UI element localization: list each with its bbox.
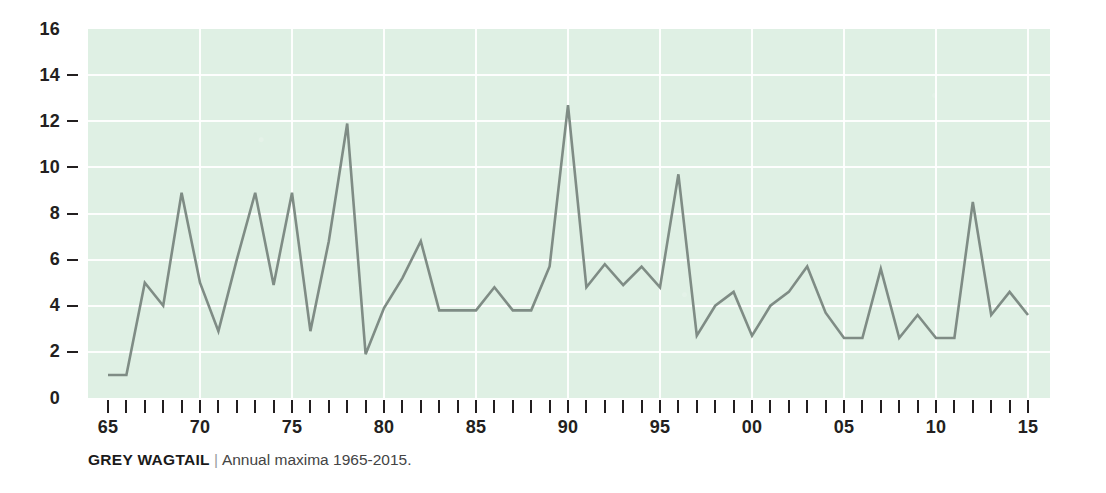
x-axis-tick-1997 (696, 400, 698, 413)
y-axis-tick-mark (67, 397, 78, 399)
x-axis-tick-2007 (880, 400, 882, 413)
x-axis-tick-2001 (769, 400, 771, 413)
y-axis-tick-mark (67, 74, 78, 76)
x-axis-tick-2010 (935, 400, 937, 413)
y-axis: 0246810121416 (0, 0, 88, 420)
x-axis-tick-2002 (788, 400, 790, 413)
x-axis-tick-label-80: 80 (374, 417, 394, 438)
y-axis-tick-12: 12 (0, 112, 82, 130)
series-svg (88, 29, 1050, 398)
y-axis-tick-label: 0 (50, 388, 60, 409)
x-axis-tick-1967 (144, 400, 146, 413)
series-line-grey-wagtail (108, 105, 1028, 375)
chart-figure: 0246810121416 6570758085909500051015 GRE… (0, 0, 1106, 493)
x-axis-tick-2013 (990, 400, 992, 413)
y-axis-tick-mark (67, 213, 78, 215)
x-axis-tick-1975 (291, 400, 293, 413)
x-axis-tick-1982 (420, 400, 422, 413)
y-axis-tick-8: 8 (0, 205, 82, 223)
x-axis-tick-2004 (825, 400, 827, 413)
caption-subtitle: Annual maxima 1965-2015. (222, 451, 412, 468)
y-axis-tick-label: 2 (50, 341, 60, 362)
x-axis-tick-1996 (677, 400, 679, 413)
x-axis-tick-1985 (475, 400, 477, 413)
x-axis-tick-label-95: 95 (650, 417, 670, 438)
x-axis-tick-1986 (493, 400, 495, 413)
x-axis-tick-label-75: 75 (282, 417, 302, 438)
x-axis-tick-label-70: 70 (190, 417, 210, 438)
y-axis-tick-mark (67, 166, 78, 168)
x-axis-tick-1995 (659, 400, 661, 413)
y-axis-tick-16: 16 (0, 20, 82, 38)
x-axis-tick-2015 (1027, 400, 1029, 413)
y-axis-tick-mark (67, 305, 78, 307)
x-axis-tick-label-15: 15 (1018, 417, 1038, 438)
y-axis-tick-mark (67, 351, 78, 353)
x-axis-tick-1998 (714, 400, 716, 413)
x-axis-tick-2011 (953, 400, 955, 413)
x-axis-tick-1966 (125, 400, 127, 413)
x-axis-tick-1987 (512, 400, 514, 413)
x-axis-tick-1983 (438, 400, 440, 413)
x-axis-tick-label-90: 90 (558, 417, 578, 438)
x-axis-tick-1974 (273, 400, 275, 413)
x-axis-tick-1981 (401, 400, 403, 413)
y-axis-tick-mark (67, 259, 78, 261)
x-axis-tick-label-65: 65 (98, 417, 118, 438)
x-axis-tick-1979 (365, 400, 367, 413)
x-axis-tick-1980 (383, 400, 385, 413)
y-axis-tick-mark (67, 28, 78, 30)
y-axis-tick-6: 6 (0, 251, 82, 269)
x-axis-tick-label-10: 10 (926, 417, 946, 438)
x-axis-tick-label-00: 00 (742, 417, 762, 438)
x-axis-tick-1989 (549, 400, 551, 413)
x-axis-tick-label-85: 85 (466, 417, 486, 438)
x-axis-tick-1968 (162, 400, 164, 413)
x-axis-tick-1994 (641, 400, 643, 413)
x-axis-tick-label-05: 05 (834, 417, 854, 438)
y-axis-tick-label: 4 (50, 295, 60, 316)
x-axis-tick-1965 (107, 400, 109, 413)
x-axis-tick-1970 (199, 400, 201, 413)
y-axis-tick-mark (67, 120, 78, 122)
x-axis-tick-2000 (751, 400, 753, 413)
x-axis-tick-1993 (622, 400, 624, 413)
y-axis-tick-4: 4 (0, 297, 82, 315)
x-axis: 6570758085909500051015 (88, 398, 1050, 454)
x-axis-tick-1976 (309, 400, 311, 413)
x-axis-tick-1977 (328, 400, 330, 413)
x-axis-tick-1999 (733, 400, 735, 413)
caption-separator: | (210, 451, 222, 468)
y-axis-tick-label: 12 (40, 111, 60, 132)
y-axis-tick-0: 0 (0, 389, 82, 407)
y-axis-tick-label: 8 (50, 203, 60, 224)
x-axis-tick-1978 (346, 400, 348, 413)
x-axis-tick-1991 (585, 400, 587, 413)
x-axis-tick-2008 (898, 400, 900, 413)
y-axis-tick-2: 2 (0, 343, 82, 361)
y-axis-tick-label: 10 (40, 157, 60, 178)
x-axis-tick-2006 (861, 400, 863, 413)
x-axis-tick-1984 (457, 400, 459, 413)
x-axis-tick-2014 (1009, 400, 1011, 413)
y-axis-tick-label: 14 (40, 65, 60, 86)
x-axis-tick-2012 (972, 400, 974, 413)
y-axis-tick-label: 6 (50, 249, 60, 270)
caption: GREY WAGTAIL|Annual maxima 1965-2015. (88, 451, 411, 469)
plot-area (88, 29, 1050, 398)
x-axis-tick-2003 (806, 400, 808, 413)
y-axis-tick-10: 10 (0, 158, 82, 176)
x-axis-tick-1990 (567, 400, 569, 413)
y-axis-tick-label: 16 (40, 19, 60, 40)
x-axis-tick-2009 (917, 400, 919, 413)
x-axis-tick-1992 (604, 400, 606, 413)
x-axis-tick-1972 (236, 400, 238, 413)
x-axis-tick-1973 (254, 400, 256, 413)
y-axis-tick-14: 14 (0, 66, 82, 84)
caption-title: GREY WAGTAIL (88, 451, 210, 468)
x-axis-tick-2005 (843, 400, 845, 413)
x-axis-tick-1969 (181, 400, 183, 413)
x-axis-tick-1971 (217, 400, 219, 413)
x-axis-tick-1988 (530, 400, 532, 413)
